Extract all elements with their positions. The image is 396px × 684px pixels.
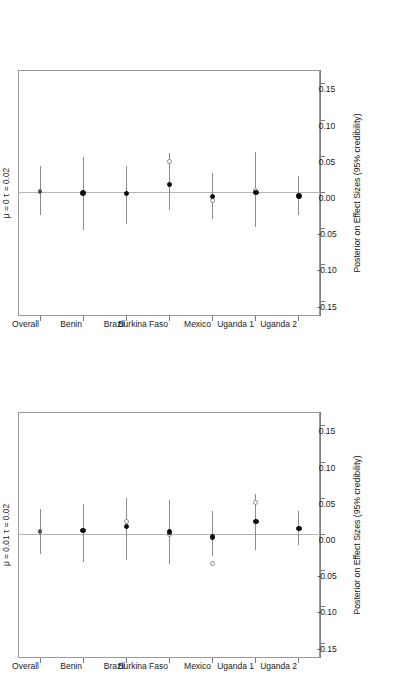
value-tick-label: -0.15: [309, 302, 345, 312]
posterior-estimate-marker: [38, 189, 43, 194]
value-tick-label: -0.10: [309, 265, 345, 275]
category-label: Uganda 2: [197, 661, 297, 671]
panel-subtitle-good: μ = 0.01 τ = 0.02: [1, 412, 11, 658]
posterior-estimate-marker: [167, 529, 173, 535]
figure-canvas: -0.15-0.10-0.050.000.050.100.15 OverallB…: [0, 0, 396, 684]
value-tick-label: 0.00: [309, 193, 345, 203]
posterior-estimate-marker: [296, 193, 302, 199]
posterior-estimate-marker: [124, 524, 130, 530]
posterior-estimate-marker: [253, 519, 259, 525]
category-tick: [298, 316, 299, 321]
panel-good-news: -0.15-0.10-0.050.000.050.100.15 OverallB…: [0, 342, 396, 684]
value-tick-label: 0.05: [309, 157, 345, 167]
value-tick-label: -0.05: [309, 229, 345, 239]
value-tick-label: 0.15: [309, 84, 345, 94]
category-label: Uganda 2: [197, 319, 297, 329]
value-tick-label: 0.10: [309, 121, 345, 131]
value-tick-label: -0.05: [309, 571, 345, 581]
value-tick-label: -0.15: [309, 644, 345, 654]
value-tick-label: 0.00: [309, 535, 345, 545]
posterior-estimate-marker: [38, 529, 43, 534]
panel-subtitle-bad: μ = 0 τ = 0.02: [1, 70, 11, 316]
category-tick: [298, 658, 299, 663]
axis-title-good: Posterior on Effect Sizes (95% credibili…: [352, 386, 362, 684]
posterior-estimate-marker: [80, 190, 86, 196]
value-tick-label: 0.05: [309, 499, 345, 509]
value-tick-label: -0.10: [309, 607, 345, 617]
posterior-estimate-marker: [296, 526, 302, 532]
posterior-estimate-marker: [253, 190, 259, 196]
value-tick-label: 0.15: [309, 426, 345, 436]
panel-bad-news: -0.15-0.10-0.050.000.050.100.15 OverallB…: [0, 0, 396, 342]
unpooled-estimate-marker: [167, 159, 172, 164]
axis-title-bad: Posterior on Effect Sizes (95% credibili…: [352, 44, 362, 342]
value-tick-label: 0.10: [309, 463, 345, 473]
